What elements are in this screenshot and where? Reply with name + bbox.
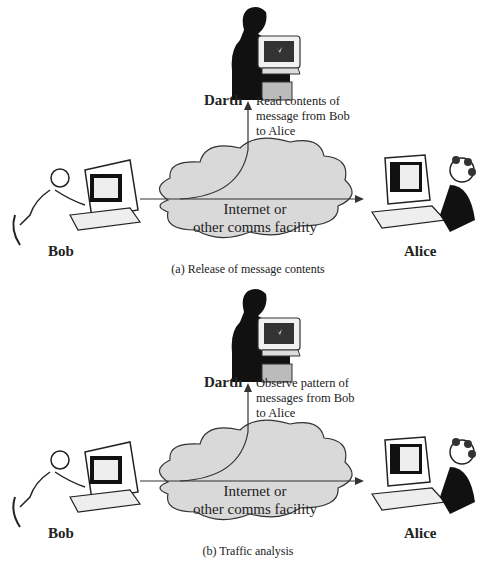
- caption: (b) Traffic analysis: [0, 544, 496, 559]
- network-label-line: other comms facility: [170, 500, 340, 518]
- annotation-text: Observe pattern of messages from Bob to …: [256, 376, 355, 421]
- diagram-graphics: [0, 0, 496, 282]
- diagram-graphics: [0, 282, 496, 564]
- annotation-line: Read contents of: [256, 94, 350, 109]
- panel-release-of-message-contents: Darth Read contents of message from Bob …: [0, 0, 496, 282]
- darth-silhouette-icon: [232, 289, 300, 382]
- network-label-line: other comms facility: [170, 218, 340, 236]
- alice-computer-icon: [372, 437, 476, 514]
- alice-label: Alice: [404, 243, 436, 260]
- network-label-line: Internet or: [170, 482, 340, 500]
- annotation-line: to Alice: [256, 406, 355, 421]
- alice-computer-icon: [372, 155, 476, 232]
- darth-label: Darth: [204, 374, 242, 391]
- annotation-line: message from Bob: [256, 109, 350, 124]
- network-label: Internet or other comms facility: [170, 482, 340, 518]
- bob-computer-icon: [13, 442, 140, 527]
- darth-label: Darth: [204, 92, 242, 109]
- bob-computer-icon: [13, 160, 140, 245]
- network-label-line: Internet or: [170, 200, 340, 218]
- alice-label: Alice: [404, 525, 436, 542]
- network-label: Internet or other comms facility: [170, 200, 340, 236]
- annotation-line: Observe pattern of: [256, 376, 355, 391]
- annotation-line: to Alice: [256, 124, 350, 139]
- annotation-line: messages from Bob: [256, 391, 355, 406]
- caption: (a) Release of message contents: [0, 262, 496, 277]
- bob-label: Bob: [48, 525, 74, 542]
- bob-label: Bob: [48, 243, 74, 260]
- panel-traffic-analysis: Darth Observe pattern of messages from B…: [0, 282, 496, 564]
- annotation-text: Read contents of message from Bob to Ali…: [256, 94, 350, 139]
- darth-silhouette-icon: [232, 7, 300, 100]
